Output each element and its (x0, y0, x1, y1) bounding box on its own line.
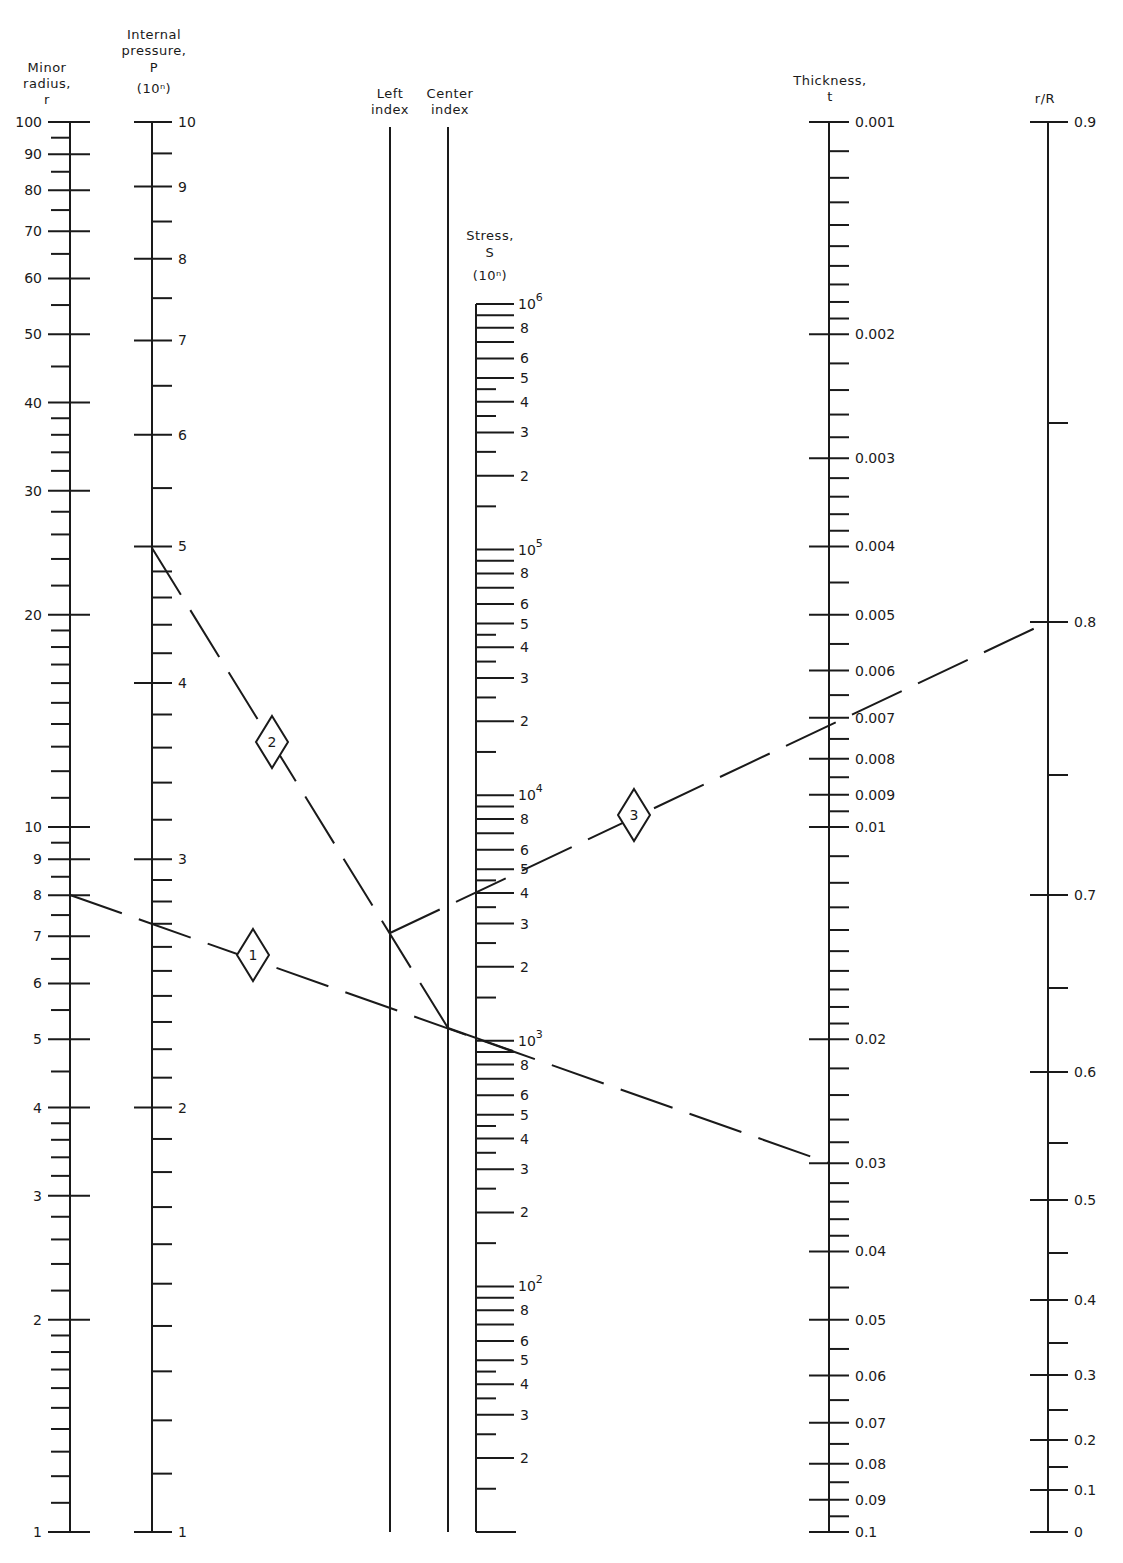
marker-label: 1 (249, 947, 258, 963)
axis-minor-radius: 100908070605040302010987654321 (15, 114, 90, 1540)
axis-thickness: 0.0010.0020.0030.0040.0050.0060.0070.008… (809, 114, 895, 1540)
tick-label: 1 (33, 1524, 42, 1540)
tick-label: 2 (520, 468, 529, 484)
axis-title: index (431, 102, 469, 117)
tick-label: 8 (520, 565, 529, 581)
tick-label: 4 (520, 1131, 529, 1147)
tick-label: 2 (520, 1204, 529, 1220)
tick-label: 0.06 (855, 1368, 886, 1384)
tick-label: 6 (520, 1087, 529, 1103)
marker-label: 3 (630, 807, 639, 823)
nomogram-chart: Minorradius,rInternalpressure,P(10ⁿ)Left… (0, 0, 1123, 1563)
tick-label: 4 (520, 394, 529, 410)
tick-label: 8 (33, 887, 42, 903)
tick-label: 90 (24, 146, 42, 162)
tick-label: 60 (24, 270, 42, 286)
marker-label: 2 (268, 734, 277, 750)
tick-label: 2 (178, 1100, 187, 1116)
tick-label: 0.09 (855, 1492, 886, 1508)
tick-label: 20 (24, 607, 42, 623)
axis-internal-pressure: 10987654321 (134, 114, 196, 1540)
tick-label: 0.001 (855, 114, 895, 130)
axis-title: (10ⁿ) (473, 268, 507, 283)
tick-label: 8 (178, 251, 187, 267)
axis-stress: 1061051041031028654328654328654328654328… (476, 291, 543, 1532)
tick-label: 80 (24, 182, 42, 198)
axis-title: r (44, 92, 50, 107)
axis-title: P (150, 60, 158, 75)
step-marker-1: 1 (237, 929, 269, 981)
axis-title: Thickness, (792, 73, 866, 88)
tick-label: 6 (520, 350, 529, 366)
tick-label: 0.02 (855, 1031, 886, 1047)
tick-label: 4 (520, 1376, 529, 1392)
tick-label: 0 (1074, 1524, 1083, 1540)
axis-title: index (371, 102, 409, 117)
tick-label: 4 (520, 639, 529, 655)
tick-label: 5 (178, 538, 187, 554)
tick-label: 0.03 (855, 1155, 886, 1171)
tick-label: 0.01 (855, 819, 886, 835)
tick-label: 30 (24, 483, 42, 499)
tick-label: 0.5 (1074, 1192, 1096, 1208)
tick-label: 0.08 (855, 1456, 886, 1472)
step-marker-3: 3 (618, 789, 650, 841)
tick-label: 0.8 (1074, 614, 1096, 630)
tick-label: 9 (178, 179, 187, 195)
tick-label: 2 (520, 1450, 529, 1466)
tick-label: 6 (520, 596, 529, 612)
tick-label: 3 (33, 1188, 42, 1204)
tick-label: 2 (33, 1312, 42, 1328)
tick-label: 0.003 (855, 450, 895, 466)
axes: 1009080706050403020109876543211098765432… (15, 114, 1096, 1540)
tick-label: 6 (520, 842, 529, 858)
axis-title: r/R (1035, 91, 1055, 106)
tick-label: 0.1 (1074, 1482, 1096, 1498)
tick-label: 0.04 (855, 1243, 886, 1259)
tick-label: 6 (33, 975, 42, 991)
tick-label: 9 (33, 851, 42, 867)
tick-label: 0.3 (1074, 1367, 1096, 1383)
tick-label: 106 (518, 291, 543, 312)
tick-label: 8 (520, 1057, 529, 1073)
tick-label: 0.007 (855, 710, 895, 726)
tick-label: 8 (520, 811, 529, 827)
axis-title: Center (427, 86, 474, 101)
tick-label: 104 (518, 782, 543, 803)
axis-title: (10ⁿ) (137, 81, 171, 96)
tick-label: 3 (520, 916, 529, 932)
tick-label: 0.009 (855, 787, 895, 803)
tick-label: 4 (33, 1100, 42, 1116)
tick-label: 0.07 (855, 1415, 886, 1431)
tick-label: 7 (33, 928, 42, 944)
axis-title: S (486, 245, 495, 260)
tick-label: 5 (520, 370, 529, 386)
axis-title: t (827, 89, 833, 104)
construction-line-3 (390, 622, 1048, 933)
tick-label: 103 (518, 1028, 543, 1049)
tick-label: 0.05 (855, 1312, 886, 1328)
tick-label: 0.004 (855, 538, 895, 554)
tick-label: 0.6 (1074, 1064, 1096, 1080)
tick-label: 8 (520, 1302, 529, 1318)
tick-label: 3 (520, 424, 529, 440)
tick-label: 102 (518, 1273, 543, 1294)
tick-label: 10 (178, 114, 196, 130)
tick-label: 3 (520, 1161, 529, 1177)
tick-label: 100 (15, 114, 42, 130)
tick-label: 2 (520, 713, 529, 729)
tick-label: 0.1 (855, 1524, 877, 1540)
construction-line-result (448, 1028, 513, 1051)
axis-title: Stress, (466, 228, 514, 243)
tick-label: 5 (520, 1107, 529, 1123)
tick-label: 50 (24, 326, 42, 342)
axis-title: Left (377, 86, 403, 101)
tick-label: 1 (178, 1524, 187, 1540)
tick-label: 0.7 (1074, 887, 1096, 903)
tick-label: 105 (518, 537, 543, 558)
axis-title: pressure, (122, 43, 187, 58)
tick-label: 10 (24, 819, 42, 835)
axis-title: Minor (28, 60, 67, 75)
tick-label: 3 (520, 670, 529, 686)
tick-label: 2 (520, 959, 529, 975)
